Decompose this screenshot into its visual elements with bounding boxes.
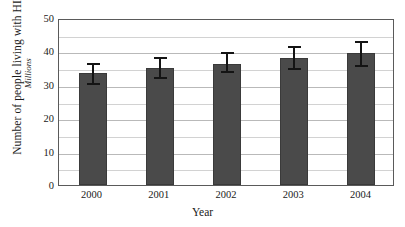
x-axis-tick-labels: 20002001200220032004: [58, 189, 394, 205]
y-axis-title-line1: Number of people living with HIV: [11, 0, 23, 163]
y-tick-label: 30: [30, 81, 54, 92]
error-bar-stem: [360, 41, 362, 68]
y-tick-label: 20: [30, 114, 54, 125]
error-bar-cap-bottom: [221, 71, 234, 73]
x-tick-label: 2002: [196, 189, 256, 200]
error-bar-stem: [226, 52, 228, 73]
error-bar-stem: [159, 57, 161, 79]
gridline-minor: [59, 37, 393, 38]
x-tick-label: 2003: [263, 189, 323, 200]
error-bar-cap-top: [154, 57, 167, 59]
error-bar-cap-top: [355, 41, 368, 43]
error-bar-cap-top: [87, 63, 100, 65]
y-tick-label: 0: [30, 181, 54, 192]
error-bar-cap-bottom: [288, 68, 301, 70]
error-bar-cap-top: [288, 46, 301, 48]
y-tick-label: 50: [30, 14, 54, 25]
x-tick-label: 2000: [62, 189, 122, 200]
y-tick-label: 10: [30, 148, 54, 159]
x-axis-title: Year: [0, 206, 405, 218]
error-bar-cap-top: [221, 52, 234, 54]
x-tick-label: 2001: [129, 189, 189, 200]
bar: [213, 64, 241, 185]
bar: [146, 68, 174, 185]
bar: [347, 53, 375, 185]
y-tick-label: 40: [30, 47, 54, 58]
x-tick-label: 2004: [330, 189, 390, 200]
y-axis-tick-labels: 01020304050: [30, 19, 54, 186]
error-bar-cap-bottom: [154, 77, 167, 79]
error-bar-stem: [293, 46, 295, 70]
plot-area: [58, 19, 394, 186]
bar: [280, 58, 308, 185]
error-bar-cap-bottom: [355, 65, 368, 67]
bar: [79, 73, 107, 185]
error-bar-cap-bottom: [87, 83, 100, 85]
chart-figure: Number of people living with HIV Million…: [0, 0, 405, 227]
error-bar-stem: [92, 63, 94, 85]
